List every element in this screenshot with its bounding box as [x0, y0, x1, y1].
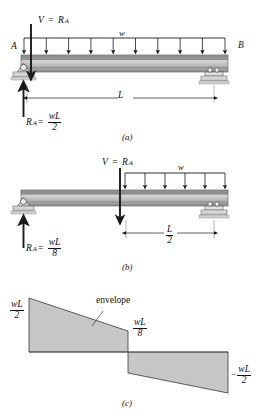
- shear-label-b: V = RA: [102, 157, 133, 167]
- dimension-label-half-L: L2: [166, 225, 173, 245]
- support-label-a: A: [11, 41, 17, 51]
- load-label-w-a: w: [119, 28, 125, 38]
- envelope-value-bottom-right: −wL2: [231, 365, 251, 385]
- reaction-label-b: RA= wL8: [26, 238, 61, 258]
- shear-label-a: V = RA: [38, 15, 69, 25]
- distributed-load-b: [125, 173, 225, 187]
- reaction-label-a: RA= wL2: [26, 112, 61, 132]
- figure-shear-envelope: V = RA A B w L RA= wL2 (a): [0, 0, 259, 415]
- negative-envelope-region: [128, 352, 228, 393]
- support-label-b: B: [238, 40, 244, 50]
- distributed-load-a: [24, 38, 225, 52]
- caption-b: (b): [122, 262, 133, 272]
- caption-c: (c): [122, 398, 132, 408]
- envelope-value-top-left: wL2: [10, 300, 24, 320]
- beam-a: [21, 55, 228, 72]
- envelope-label: envelope: [96, 295, 130, 305]
- positive-envelope-region: [29, 298, 128, 352]
- beam-b: [21, 190, 228, 206]
- envelope-value-mid: wL8: [133, 318, 147, 338]
- load-label-w-b: w: [178, 162, 184, 172]
- dimension-label-L: L: [118, 90, 123, 100]
- caption-a: (a): [122, 132, 133, 142]
